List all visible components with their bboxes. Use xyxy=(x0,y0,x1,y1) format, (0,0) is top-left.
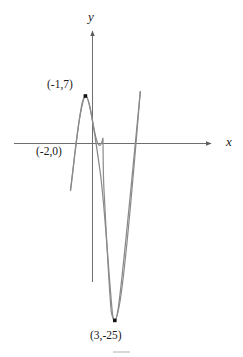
local-max-marker xyxy=(84,94,88,98)
local-min-label: (3,-25) xyxy=(90,330,122,342)
graph-canvas xyxy=(0,0,243,357)
y-axis-label: y xyxy=(88,10,94,23)
local-min-marker xyxy=(113,319,117,323)
math-figure: y x (-1,7) (-2,0) (3,-25) xyxy=(0,0,243,357)
page-artifact-mark xyxy=(113,351,130,353)
local-max-label: (-1,7) xyxy=(47,79,73,91)
x-intercept-label: (-2,0) xyxy=(36,146,62,158)
x-axis-label: x xyxy=(226,135,232,148)
